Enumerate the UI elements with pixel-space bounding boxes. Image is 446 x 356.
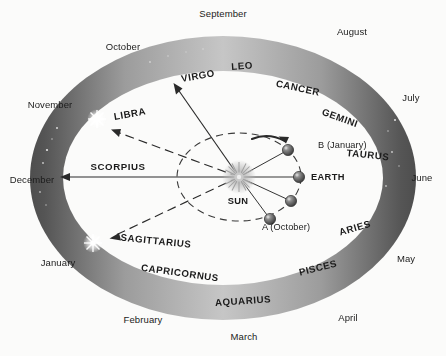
- earth-marker-main: [293, 171, 304, 182]
- month-label-may: May: [397, 254, 415, 264]
- month-label-august: August: [337, 27, 367, 37]
- sun-symbol: [222, 160, 256, 194]
- earth-label: EARTH: [311, 173, 345, 182]
- diagram-canvas: September August July June May April Mar…: [0, 0, 446, 356]
- sun-label: SUN: [228, 197, 249, 206]
- month-label-october: October: [106, 42, 141, 52]
- month-label-november: November: [28, 100, 73, 110]
- earth-position-a-label: A (October): [262, 223, 310, 232]
- month-label-june: June: [411, 173, 432, 183]
- month-label-december: December: [10, 175, 55, 185]
- bright-star-sagittarius: [83, 233, 103, 253]
- constellation-label-scorpius: SCORPIUS: [91, 162, 146, 172]
- month-label-february: February: [124, 315, 163, 325]
- earth-position-b-label: B (January): [318, 141, 367, 150]
- bright-star-libra: [87, 109, 107, 129]
- month-label-april: April: [338, 313, 358, 323]
- earth-marker-mid: [285, 195, 296, 206]
- month-label-july: July: [402, 93, 419, 103]
- month-label-march: March: [231, 332, 258, 342]
- month-label-january: January: [41, 258, 76, 268]
- constellation-label-leo: LEO: [231, 60, 253, 71]
- earth-marker-b: [282, 144, 293, 155]
- month-label-september: September: [199, 9, 246, 19]
